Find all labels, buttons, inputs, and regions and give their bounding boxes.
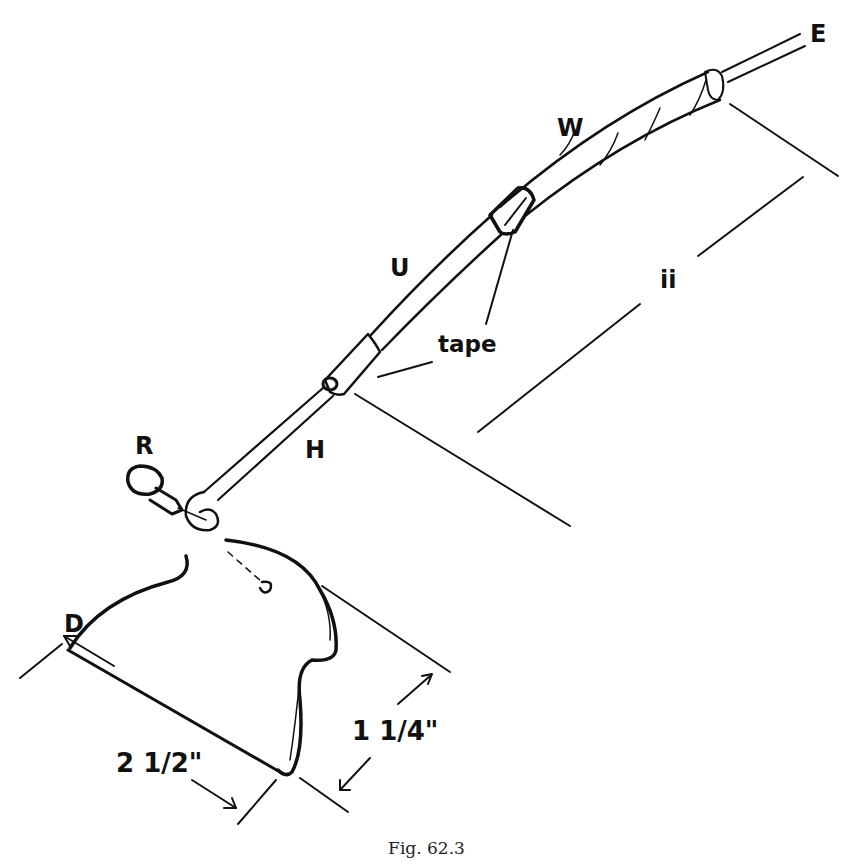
hook-loop [186,492,218,530]
label-tape: tape [438,331,497,357]
label-e: E [810,20,826,48]
label-r: R [135,432,153,460]
label-u: U [390,254,410,282]
screw-r [128,466,206,520]
label-dimension-length: 2 1/2" [116,748,202,778]
label-dimension-width: 1 1/4" [352,716,438,746]
diagram-figure: E W U ii tape H R D 2 1/2" 1 1/4" [0,0,853,867]
wire-end-e [722,34,805,82]
figure-caption: Fig. 62.3 [0,838,853,858]
tape-band-lower [323,334,380,395]
label-ii: ii [660,266,676,294]
label-d: D [64,610,84,638]
label-w: W [557,114,583,142]
dimension-ii [355,104,838,526]
dimension-width [300,586,450,812]
label-h: H [305,436,325,464]
tape-band-middle [490,188,534,234]
dimension-length [20,636,276,824]
tube-u [370,215,503,350]
blade-d [68,540,336,775]
